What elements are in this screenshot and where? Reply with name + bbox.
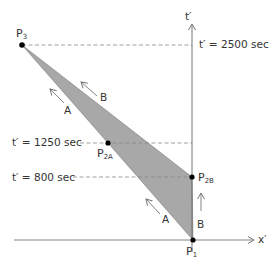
label-p2a-sub: 2A [104, 153, 113, 161]
path-label-a-lower: A [162, 214, 169, 225]
time-label-800: t′ = 800 sec [12, 172, 75, 183]
label-p2a: P2A [97, 148, 113, 161]
path-label-b-upper: B [100, 92, 107, 103]
label-p3-sub: 3 [23, 33, 27, 41]
label-p1-sub: 1 [193, 251, 197, 259]
path-label-a-upper: A [64, 105, 71, 116]
time-label-1250: t′ = 1250 sec [12, 137, 82, 148]
t-prime-axis-label: t′ [185, 11, 192, 22]
label-p3-main: P [16, 27, 23, 40]
point-p2a [105, 140, 110, 145]
label-p1: P1 [186, 246, 197, 259]
label-p3: P3 [16, 28, 27, 41]
path-label-b-lower: B [197, 219, 204, 230]
label-p2a-main: P [97, 147, 104, 160]
label-p1-main: P [186, 245, 193, 258]
arrow-a-upper-icon [50, 89, 64, 103]
label-p2b: P2B [198, 172, 214, 185]
time-label-2500: t′ = 2500 sec [199, 39, 269, 50]
point-p1 [190, 237, 195, 242]
arrow-a-lower-icon [146, 199, 160, 214]
label-p2b-main: P [198, 171, 205, 184]
label-p2b-sub: 2B [205, 177, 214, 185]
point-p3 [19, 42, 25, 48]
point-p2b [189, 174, 194, 179]
x-prime-axis-label: x′ [258, 234, 267, 245]
